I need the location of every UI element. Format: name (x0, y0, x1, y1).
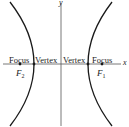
focus-right-label: Focus (92, 56, 112, 65)
y-axis-label: y (59, 0, 63, 7)
x-axis-label: x (123, 59, 127, 67)
vertex-left-label: Vertex (35, 56, 57, 65)
focus-left-label: Focus (9, 56, 29, 65)
f1-label: F1 (97, 69, 106, 79)
f2-label: F2 (16, 69, 25, 79)
vertex-right-label: Vertex (63, 56, 85, 65)
vertex-right-point (87, 63, 90, 66)
